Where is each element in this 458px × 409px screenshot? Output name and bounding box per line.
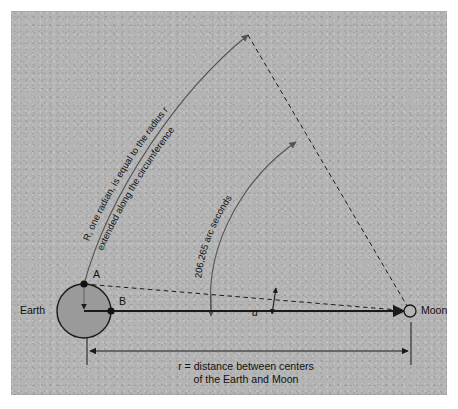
moon-label: Moon	[421, 304, 447, 316]
point-a-label: A	[93, 268, 100, 280]
point-a-marker	[80, 280, 87, 287]
dashed-apex-to-moon	[248, 35, 410, 311]
radian-arc	[84, 35, 248, 284]
distance-caption-line2: of the Earth and Moon	[194, 373, 299, 385]
dashed-a-to-moon	[84, 284, 410, 311]
point-b-label: B	[119, 295, 126, 307]
figure-stage: R, one radian, is equal to the radius r …	[0, 0, 458, 409]
diagram-canvas: R, one radian, is equal to the radius r …	[0, 0, 458, 409]
arc-seconds-arc	[210, 142, 296, 311]
point-b-marker	[107, 307, 114, 314]
alpha-label: α	[252, 306, 259, 318]
radian-annotation-line1: R, one radian, is equal to the radius r	[81, 104, 170, 242]
distance-caption-line1: r = distance between centers	[178, 360, 314, 372]
earth-label: Earth	[20, 304, 45, 316]
moon-circle	[404, 305, 416, 317]
